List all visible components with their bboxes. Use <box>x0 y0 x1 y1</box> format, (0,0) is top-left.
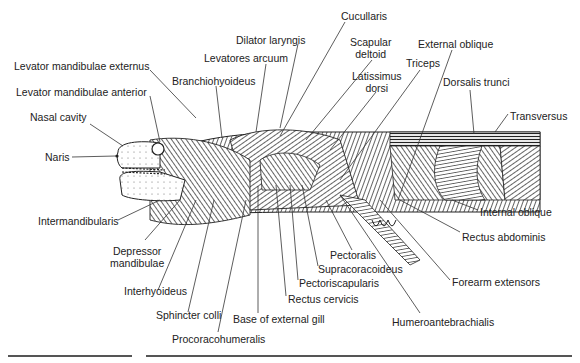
label-depressor-mandibulae: Depressor mandibulae <box>110 245 164 269</box>
label-naris: Naris <box>45 151 70 163</box>
bottom-rule-left <box>8 355 132 357</box>
label-dilator-laryngis: Dilator laryngis <box>236 34 305 46</box>
dorsalis-trunci-band <box>390 132 540 146</box>
label-cucullaris: Cucullaris <box>341 10 387 22</box>
label-nasal-cavity: Nasal cavity <box>30 111 87 123</box>
label-rectus-abdominis: Rectus abdominis <box>462 231 545 243</box>
label-transversus: Transversus <box>510 110 567 122</box>
label-sphincter-colli: Sphincter colli <box>156 309 221 321</box>
label-internal-oblique: Internal oblique <box>480 206 552 218</box>
label-base-of-external-gill: Base of external gill <box>233 313 325 325</box>
label-rectus-cervicis: Rectus cervicis <box>288 293 359 305</box>
label-pectoriscapularis: Pectoriscapularis <box>299 277 379 289</box>
label-levator-mandibulae-anterior: Levator mandibulae anterior <box>16 86 147 98</box>
salamander-muscle-illustration <box>0 0 580 363</box>
label-dorsalis-trunci: Dorsalis trunci <box>443 76 510 88</box>
label-triceps: Triceps <box>406 57 440 69</box>
label-supracoracoideus: Supracoracoideus <box>318 263 403 275</box>
label-pectoralis: Pectoralis <box>330 249 376 261</box>
label-humeroantebrachialis: Humeroantebrachialis <box>392 316 494 328</box>
label-external-oblique: External oblique <box>418 38 493 50</box>
label-branchiohyoideus: Branchiohyoideus <box>172 75 255 87</box>
label-levator-mandibulae-externus: Levator mandibulae externus <box>14 60 149 72</box>
label-forearm-extensors: Forearm extensors <box>452 276 540 288</box>
bottom-rule-right <box>146 355 572 357</box>
label-scapular-deltoid: Scapular deltoid <box>350 36 391 60</box>
label-levatores-arcuum: Levatores arcuum <box>204 52 288 64</box>
label-latissimus-dorsi: Latissimus dorsi <box>352 70 402 94</box>
eye <box>152 143 164 155</box>
label-interhyoideus: Interhyoideus <box>124 285 187 297</box>
label-procoracohumeralis: Procoracohumeralis <box>172 333 265 345</box>
label-intermandibularis: Intermandibularis <box>38 215 119 227</box>
